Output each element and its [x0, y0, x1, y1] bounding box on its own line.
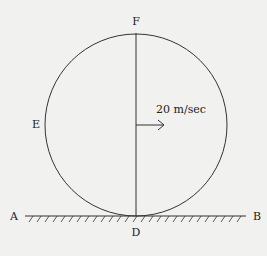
- label-f: F: [132, 15, 140, 28]
- velocity-label: 20 m/sec: [156, 103, 206, 116]
- label-b: B: [253, 210, 261, 223]
- rolling-wheel-diagram: F E D A B 20 m/sec: [0, 0, 267, 256]
- label-d: D: [132, 226, 141, 239]
- velocity-arrow-icon: [136, 120, 164, 130]
- ground-hatching: [29, 216, 241, 222]
- diagram-canvas: F E D A B 20 m/sec: [0, 0, 267, 256]
- label-e: E: [32, 118, 40, 131]
- label-a: A: [9, 210, 19, 223]
